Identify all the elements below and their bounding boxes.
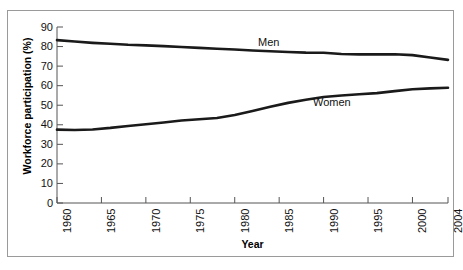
x-tick-label: 1965: [106, 209, 117, 233]
x-axis-title: Year: [57, 238, 448, 250]
x-tick-label: 1980: [240, 209, 251, 233]
x-tick-label: 1995: [373, 209, 384, 233]
plot-area: [57, 27, 448, 203]
series-label-men: Men: [258, 36, 279, 48]
x-tick-label: 1990: [329, 209, 340, 233]
plot-svg: [57, 27, 448, 203]
x-tick-label: 2004: [453, 209, 463, 233]
series-lines: [57, 40, 448, 130]
x-tick-label: 1985: [284, 209, 295, 233]
chart-figure: Workforce participation (%) 010203040506…: [0, 0, 463, 270]
x-tick-label: 1970: [151, 209, 162, 233]
x-tick-label: 2000: [417, 209, 428, 233]
series-label-women: Women: [313, 96, 351, 108]
x-tick-label: 1960: [62, 209, 73, 233]
x-tick-label: 1975: [195, 209, 206, 233]
